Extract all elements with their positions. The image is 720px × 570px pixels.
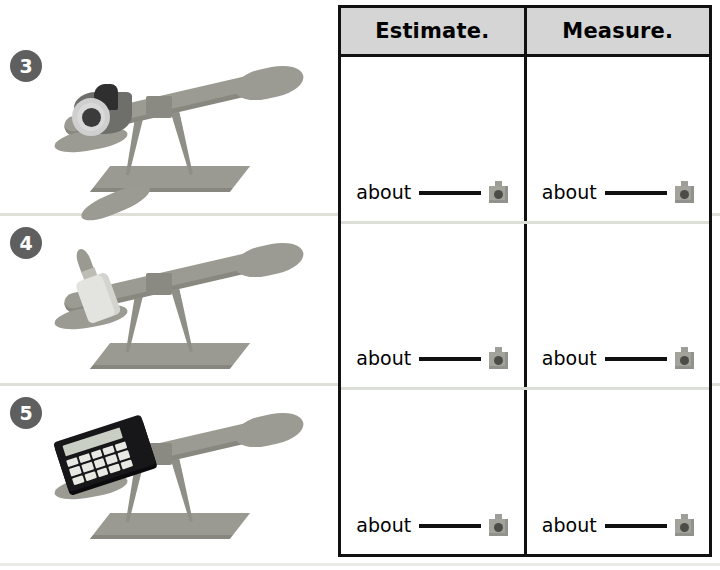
- balance-scale-illustration: [58, 223, 308, 383]
- table-body: about about: [341, 57, 709, 554]
- table-header-row: Estimate. Measure.: [341, 8, 709, 57]
- estimate-measure-table: Estimate. Measure. about about: [338, 5, 712, 557]
- scale-pan-right: [232, 61, 307, 105]
- problem-illustrations-column: 3 4: [0, 0, 338, 570]
- scale-fulcrum: [146, 96, 172, 118]
- table-row: about about: [341, 57, 709, 221]
- answer-prefix-label: about: [542, 347, 597, 369]
- unit-cube-hole: [680, 523, 689, 532]
- measure-cell[interactable]: about: [527, 390, 710, 554]
- problem-row: 4: [0, 215, 338, 387]
- measure-answer-blank[interactable]: [605, 191, 667, 195]
- answer-prefix-label: about: [542, 181, 597, 203]
- scale-base: [90, 343, 250, 369]
- unit-cube-hole: [680, 356, 689, 365]
- scale-pan-right: [232, 408, 307, 452]
- unit-cube-icon: [489, 514, 508, 536]
- problem-number-badge: 4: [10, 227, 42, 259]
- unit-cube-icon: [675, 181, 694, 203]
- balance-scale-illustration: [58, 393, 308, 553]
- measure-answer-blank[interactable]: [605, 524, 667, 528]
- answer-expression: about: [356, 181, 508, 203]
- estimate-cell[interactable]: about: [341, 390, 527, 554]
- table-row: about about: [341, 221, 709, 388]
- tape-dispenser-object: [70, 82, 138, 140]
- answer-expression: about: [356, 514, 508, 536]
- unit-cube-icon: [675, 514, 694, 536]
- scale-base: [90, 513, 250, 539]
- problem-number-badge: 3: [10, 50, 42, 82]
- answer-expression: about: [542, 347, 694, 369]
- answer-expression: about: [356, 347, 508, 369]
- answer-prefix-label: about: [356, 347, 411, 369]
- unit-cube-icon: [489, 347, 508, 369]
- answer-expression: about: [542, 514, 694, 536]
- scale-base: [90, 166, 250, 192]
- answer-prefix-label: about: [542, 514, 597, 536]
- scale-fulcrum: [146, 273, 172, 295]
- calculator-object: [53, 414, 159, 499]
- balance-scale-illustration: [58, 46, 308, 206]
- column-header-measure: Measure.: [527, 8, 710, 54]
- measure-answer-blank[interactable]: [605, 357, 667, 361]
- problem-row: 3: [0, 38, 338, 210]
- unit-cube-hole: [494, 190, 503, 199]
- table-row: about about: [341, 387, 709, 554]
- unit-cube-icon: [675, 347, 694, 369]
- tape-roll-core: [82, 108, 101, 127]
- column-header-estimate: Estimate.: [341, 8, 527, 54]
- estimate-cell[interactable]: about: [341, 224, 527, 388]
- estimate-cell[interactable]: about: [341, 57, 527, 221]
- problem-number-badge: 5: [10, 397, 42, 429]
- unit-cube-icon: [489, 181, 508, 203]
- estimate-answer-blank[interactable]: [419, 191, 481, 195]
- answer-prefix-label: about: [356, 514, 411, 536]
- measure-cell[interactable]: about: [527, 57, 710, 221]
- answer-expression: about: [542, 181, 694, 203]
- estimate-answer-blank[interactable]: [419, 524, 481, 528]
- scale-pan-right: [232, 238, 307, 282]
- unit-cube-hole: [680, 190, 689, 199]
- measure-cell[interactable]: about: [527, 224, 710, 388]
- problem-row: 5: [0, 385, 338, 557]
- estimate-answer-blank[interactable]: [419, 357, 481, 361]
- answer-prefix-label: about: [356, 181, 411, 203]
